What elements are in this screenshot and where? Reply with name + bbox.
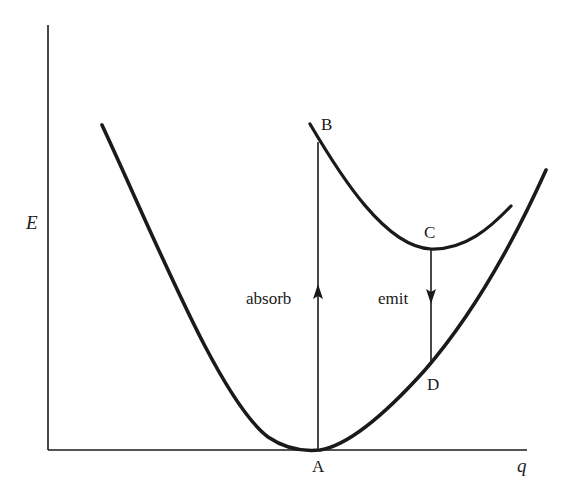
energy-diagram: E q B C D A absorb emit (0, 0, 574, 493)
emit-label: emit (378, 289, 408, 308)
excited-state-curve (310, 124, 511, 249)
point-label-b: B (321, 115, 332, 134)
ground-state-curve (102, 125, 546, 451)
point-label-a: A (312, 457, 325, 476)
absorb-label: absorb (246, 289, 291, 308)
x-axis-label: q (517, 455, 527, 476)
point-label-c: C (424, 223, 435, 242)
y-axis-label: E (25, 212, 38, 233)
point-label-d: D (427, 375, 439, 394)
